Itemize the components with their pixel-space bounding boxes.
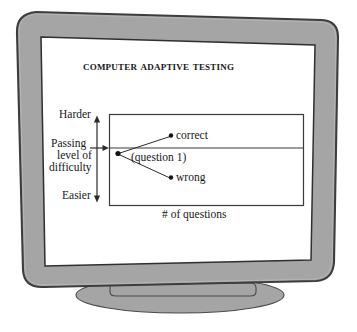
data-point-correct — [169, 133, 173, 137]
axis-label-harder: Harder — [59, 109, 91, 121]
monitor-illustration: Computer Adaptive Testing Harder Passing… — [0, 0, 357, 332]
axis-label-x: # of questions — [162, 209, 227, 221]
axis-label-passing-line3: difficulty — [49, 162, 92, 174]
axis-label-passing-line1: Passing — [51, 138, 86, 150]
data-point-wrong — [169, 175, 173, 179]
point-label-wrong: wrong — [176, 172, 205, 184]
data-point-question1 — [115, 151, 120, 156]
slide-title: Computer Adaptive Testing — [83, 59, 234, 72]
axis-label-easier: Easier — [62, 190, 91, 202]
axis-label-passing-line2: level of — [57, 150, 92, 162]
point-label-correct: correct — [176, 130, 208, 142]
point-label-question1: (question 1) — [131, 152, 186, 164]
